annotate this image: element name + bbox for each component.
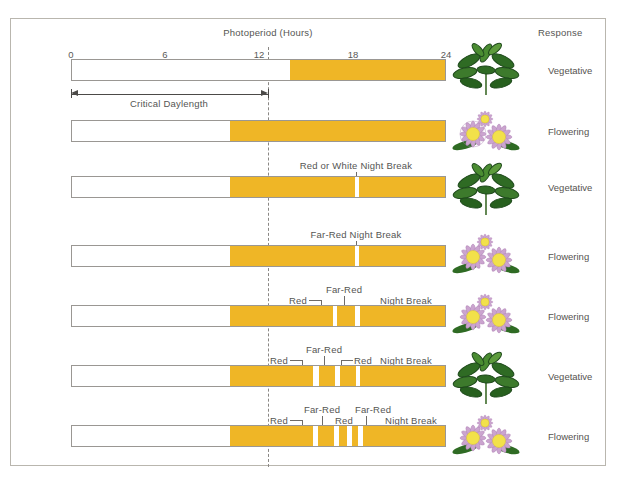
night-break-row-5-1 (333, 306, 337, 326)
figure-frame: Photoperiod (Hours) Response 0 6 12 18 2… (10, 18, 606, 466)
bar-row-1 (71, 59, 446, 81)
response-column-header: Response (538, 27, 582, 38)
plant-illustration-flowering-row-5 (451, 284, 521, 346)
night-segment-row-2 (230, 121, 445, 141)
critical-daylength-label: Critical Daylength (130, 98, 208, 109)
response-label-row-1: Vegetative (548, 65, 592, 76)
callout-row-6-far-red: Far-Red (306, 344, 342, 355)
arrow-head-right (261, 90, 268, 96)
night-segment-row-4 (230, 246, 445, 266)
plant-illustration-vegetative-row-3 (451, 157, 521, 219)
night-break-row-6-1 (313, 366, 319, 386)
callout-row-4: Far-Red Night Break (311, 229, 402, 240)
night-break-row-7-2 (334, 426, 339, 446)
night-break-row-7-4 (358, 426, 363, 446)
night-break-row-7-1 (313, 426, 318, 446)
response-label-row-2: Flowering (548, 126, 589, 137)
bar-row-6 (71, 365, 446, 387)
arrow-head-left (71, 90, 78, 96)
arrow-cap-right (268, 89, 269, 98)
night-break-row-5-2 (355, 306, 360, 326)
night-break-row-3-1 (355, 177, 359, 197)
night-segment-row-3 (230, 177, 445, 197)
critical-daylength-arrow-line (71, 94, 268, 95)
leader-row-6-red1-h (290, 360, 302, 361)
plant-illustration-flowering-row-2 (451, 101, 521, 163)
night-break-row-7-3 (347, 426, 352, 446)
callout-row-7-far-red-1: Far-Red (304, 404, 340, 415)
plant-illustration-vegetative-row-1 (451, 37, 521, 99)
axis-title: Photoperiod (Hours) (223, 27, 312, 38)
response-label-row-7: Flowering (548, 431, 589, 442)
plant-illustration-vegetative-row-6 (451, 346, 521, 408)
callout-row-5-far-red: Far-Red (326, 284, 362, 295)
bar-row-4 (71, 245, 446, 267)
response-label-row-4: Flowering (548, 251, 589, 262)
plant-illustration-flowering-row-7 (451, 405, 521, 467)
night-break-row-6-3 (356, 366, 360, 386)
callout-row-3: Red or White Night Break (300, 160, 413, 171)
response-label-row-3: Vegetative (548, 182, 592, 193)
night-break-row-4-1 (355, 246, 359, 266)
callout-row-7-far-red-2: Far-Red (355, 404, 391, 415)
bar-row-3 (71, 176, 446, 198)
response-label-row-5: Flowering (548, 311, 589, 322)
response-label-row-6: Vegetative (548, 371, 592, 382)
bar-row-7 (71, 425, 446, 447)
night-break-row-6-2 (335, 366, 340, 386)
leader-row-5-red-h (309, 300, 321, 301)
night-segment-row-1 (290, 60, 445, 80)
bar-row-5 (71, 305, 446, 327)
leader-row-7-red1-h (290, 420, 302, 421)
leader-row-6-red2-h (341, 360, 353, 361)
plant-illustration-flowering-row-4 (451, 224, 521, 286)
bar-row-2 (71, 120, 446, 142)
night-segment-row-5 (230, 306, 445, 326)
